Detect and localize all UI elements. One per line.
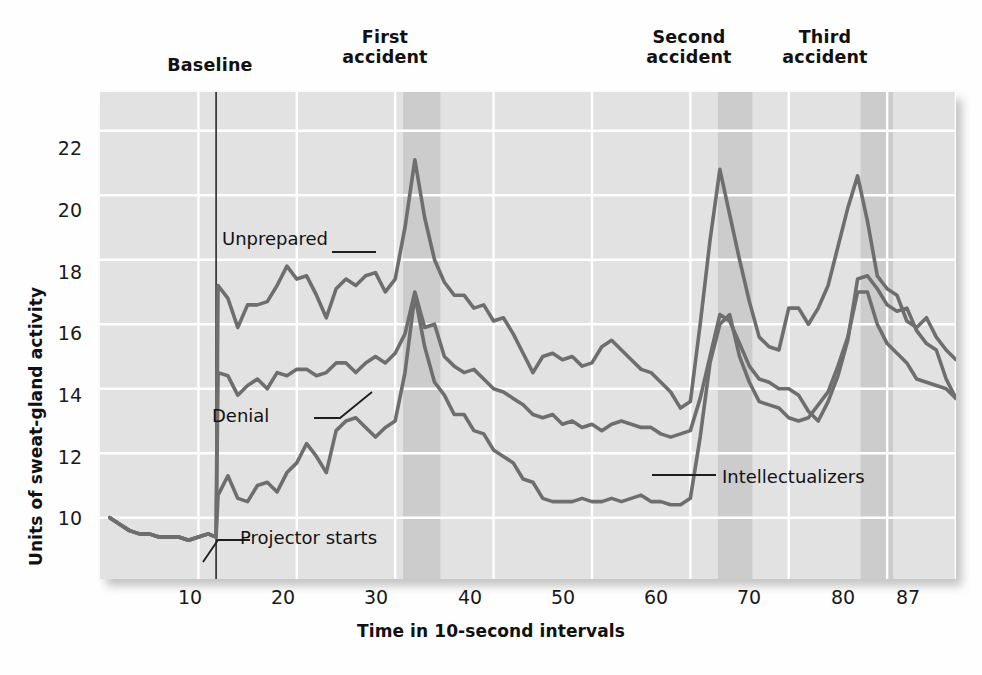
annotation-projector-starts-text: Projector starts — [240, 527, 377, 548]
third-accident-label-line2: accident — [782, 47, 867, 67]
x-axis-title-text: Time in 10-second intervals — [357, 621, 625, 641]
chart-canvas — [100, 92, 956, 579]
series-label-unprepared-text: Unprepared — [222, 228, 328, 249]
chart-figure: Baseline First accident Second accident … — [0, 0, 982, 675]
y-tick-20: 20 — [42, 199, 82, 221]
y-tick-20-text: 20 — [58, 199, 82, 221]
series-label-denial-text: Denial — [212, 405, 269, 426]
x-tick-80-text: 80 — [831, 586, 855, 608]
y-tick-18-text: 18 — [58, 261, 82, 283]
x-tick-10: 10 — [160, 586, 220, 608]
x-tick-20: 20 — [253, 586, 313, 608]
top-label-baseline: Baseline — [150, 56, 270, 76]
x-tick-60: 60 — [626, 586, 686, 608]
y-tick-12: 12 — [42, 446, 82, 468]
y-tick-14: 14 — [42, 384, 82, 406]
x-tick-70: 70 — [719, 586, 779, 608]
x-tick-40: 40 — [440, 586, 500, 608]
y-tick-12-text: 12 — [58, 446, 82, 468]
plot-area — [100, 92, 956, 579]
y-tick-16-text: 16 — [58, 322, 82, 344]
y-tick-14-text: 14 — [58, 384, 82, 406]
x-tick-30-text: 30 — [364, 586, 388, 608]
x-tick-50: 50 — [533, 586, 593, 608]
y-tick-22-text: 22 — [58, 137, 82, 159]
x-tick-87-text: 87 — [896, 586, 920, 608]
x-tick-70-text: 70 — [737, 586, 761, 608]
x-tick-60-text: 60 — [644, 586, 668, 608]
x-tick-50-text: 50 — [551, 586, 575, 608]
series-label-intellectualizers-text: Intellectualizers — [722, 466, 865, 487]
x-tick-30: 30 — [346, 586, 406, 608]
top-label-second-accident: Second accident — [619, 28, 759, 67]
x-tick-20-text: 20 — [271, 586, 295, 608]
second-accident-label-line2: accident — [646, 47, 731, 67]
series-label-intellectualizers: Intellectualizers — [722, 466, 865, 487]
x-tick-80: 80 — [813, 586, 873, 608]
series-label-denial: Denial — [212, 405, 269, 426]
x-tick-87: 87 — [878, 586, 938, 608]
y-tick-10-text: 10 — [58, 507, 82, 529]
y-tick-16: 16 — [42, 322, 82, 344]
x-tick-10-text: 10 — [178, 586, 202, 608]
top-label-third-accident: Third accident — [760, 28, 890, 67]
third-accident-label-line1: Third — [799, 27, 852, 47]
first-accident-label-line1: First — [362, 27, 408, 47]
second-accident-label-line1: Second — [652, 27, 725, 47]
first-accident-label-line2: accident — [342, 47, 427, 67]
baseline-label-text: Baseline — [167, 55, 252, 75]
top-label-first-accident: First accident — [320, 28, 450, 67]
y-tick-22: 22 — [42, 137, 82, 159]
leader-denial — [314, 392, 372, 418]
x-tick-40-text: 40 — [458, 586, 482, 608]
series-label-unprepared: Unprepared — [222, 228, 328, 249]
y-tick-18: 18 — [42, 261, 82, 283]
y-tick-10: 10 — [42, 507, 82, 529]
x-axis-title: Time in 10-second intervals — [0, 621, 982, 641]
annotation-projector-starts: Projector starts — [240, 527, 377, 548]
